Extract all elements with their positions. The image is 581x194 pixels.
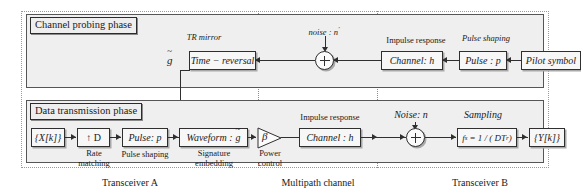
caption-signature-line2: embedding bbox=[184, 159, 244, 169]
block-pilot-symbol[interactable]: Pilot symbol bbox=[521, 51, 581, 70]
connector-channel-to-sum-probing bbox=[334, 60, 381, 61]
arrowhead-channel-to-sum-probing bbox=[333, 57, 338, 63]
arrowhead-waveform-to-amp bbox=[251, 134, 256, 140]
block-waveform[interactable]: Waveform : ~ g bbox=[179, 128, 248, 147]
block-pulse-probing[interactable]: Pulse : p bbox=[459, 51, 507, 70]
summation-node-probing bbox=[315, 51, 334, 70]
block-input-symbols[interactable]: {X[k]} bbox=[31, 128, 65, 147]
arrowhead-sampler-to-output bbox=[522, 134, 527, 140]
block-waveform-prefix: Waveform : bbox=[186, 132, 232, 143]
arrowhead-pulse-to-channel-probing bbox=[442, 57, 447, 63]
tilde-accent-g-probing: ~ bbox=[167, 48, 173, 54]
block-sampler-fs-sub: s bbox=[465, 134, 468, 142]
arrowhead-pulse-to-waveform bbox=[173, 134, 178, 140]
caption-sampling: Sampling bbox=[456, 110, 510, 120]
caption-signature-embedding: Signature embedding bbox=[184, 149, 244, 168]
block-time-reversal[interactable]: Time − reversal bbox=[189, 51, 256, 70]
label-noise-probing-text: noise : n bbox=[309, 27, 338, 37]
caption-rate-matching: Rate matching bbox=[76, 149, 112, 168]
amplifier-gain-symbol: β bbox=[262, 130, 267, 142]
block-channel-probing[interactable]: Channel: h bbox=[381, 51, 443, 70]
footer-label-transceiver-a: Transceiver A bbox=[60, 177, 200, 188]
caption-impulse-response-data: Impulse response bbox=[294, 112, 366, 122]
phase-label-data-transmission: Data transmission phase bbox=[30, 103, 142, 120]
amplifier-power-control[interactable]: β bbox=[257, 127, 282, 149]
arrowhead-channel-to-sum-data bbox=[400, 134, 405, 140]
block-rate-matching[interactable]: ↑ D bbox=[77, 128, 110, 147]
arrowhead-sum-to-sampler bbox=[451, 134, 456, 140]
signal-label-g-tilde: ~ g bbox=[167, 54, 173, 66]
caption-power-line2: control bbox=[252, 159, 288, 169]
caption-power-control: Power control bbox=[252, 149, 288, 168]
block-pulse-data[interactable]: Pulse: p bbox=[122, 128, 168, 147]
summation-node-data bbox=[406, 128, 425, 147]
arrowhead-sum-to-time-reversal bbox=[255, 57, 260, 63]
label-noise-probing-superscript: ' bbox=[338, 25, 340, 33]
block-output-symbols[interactable]: {Y[k]} bbox=[529, 128, 565, 147]
caption-tr-mirror: TR mirror bbox=[174, 32, 234, 42]
connector-sum-to-time-reversal bbox=[256, 60, 315, 61]
connector-time-reversal-tap bbox=[180, 70, 190, 71]
footer-label-multipath-channel: Multipath channel bbox=[258, 177, 378, 188]
arrowhead-rate-to-pulse bbox=[116, 134, 121, 140]
block-channel-data[interactable]: Channel : h bbox=[299, 128, 361, 147]
label-noise-data: Noise: n bbox=[383, 110, 439, 120]
tilde-accent-g-data: ~ bbox=[236, 126, 241, 132]
caption-rate-matching-line2: matching bbox=[76, 159, 112, 169]
phase-label-channel-probing: Channel probing phase bbox=[30, 17, 137, 34]
caption-pulse-shaping-probing: Pulse shaping bbox=[455, 33, 517, 43]
block-sampler-close: ) bbox=[509, 133, 512, 143]
footer-label-transceiver-b: Transceiver B bbox=[410, 177, 550, 188]
arrowhead-input-to-rate bbox=[71, 134, 76, 140]
arrowhead-pilot-to-pulse bbox=[506, 57, 511, 63]
caption-pulse-shaping-data: Pulse shaping bbox=[117, 149, 173, 159]
block-sampler[interactable]: fs= 1 / ( DTr ) bbox=[457, 128, 517, 147]
label-noise-probing: noise : n' bbox=[297, 24, 351, 37]
block-sampler-expr: = 1 / ( DT bbox=[469, 133, 506, 143]
caption-impulse-response-probing: Impulse response bbox=[380, 35, 452, 45]
